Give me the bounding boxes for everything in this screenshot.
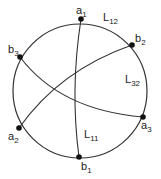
vertex-b1 (76, 154, 82, 160)
labels-group: L12L32L11 (84, 11, 141, 143)
vertices-group: a1b2a3b1a2b3 (8, 4, 152, 175)
vertex-label-b3: b3 (8, 43, 19, 58)
region-label-L11: L11 (84, 128, 99, 143)
region-label-L12: L12 (103, 11, 119, 26)
circle-graph-diagram: a1b2a3b1a2b3 L12L32L11 (0, 0, 161, 179)
region-label-L32: L32 (125, 73, 141, 88)
vertex-b2 (129, 42, 135, 48)
outer-circle (13, 24, 147, 158)
vertex-label-a1: a1 (76, 4, 87, 19)
chord-a1-b1 (75, 19, 81, 157)
vertex-label-a2: a2 (8, 130, 19, 145)
vertex-label-b2: b2 (135, 32, 146, 47)
chord-b3-a3 (20, 57, 143, 117)
vertex-a2 (16, 125, 22, 131)
vertex-label-b1: b1 (81, 160, 92, 175)
vertex-label-a3: a3 (141, 119, 152, 134)
